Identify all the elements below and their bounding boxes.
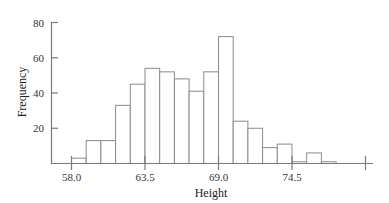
histogram-bar	[219, 37, 234, 164]
x-tick-label: 58.0	[62, 171, 82, 183]
histogram-bar	[233, 121, 248, 163]
histogram-bar	[72, 158, 87, 163]
y-tick-label: 40	[33, 87, 45, 99]
histogram-bar	[145, 68, 160, 163]
histogram-bar	[174, 79, 189, 164]
y-tick-label: 60	[33, 52, 45, 64]
histogram-bars	[72, 37, 337, 164]
x-tick-label: 74.5	[282, 171, 302, 183]
histogram-bar	[277, 144, 292, 163]
histogram-bar	[204, 72, 219, 164]
histogram-bar	[248, 128, 263, 163]
histogram-bar	[307, 153, 322, 164]
x-tick-label: 63.5	[135, 171, 155, 183]
y-axis: 20406080	[33, 17, 58, 164]
x-axis-label: Height	[195, 186, 228, 200]
y-tick-label: 20	[33, 122, 45, 134]
y-axis-label: Frequency	[15, 67, 29, 118]
histogram-bar	[263, 148, 278, 164]
histogram-bar	[130, 84, 145, 163]
histogram-bar	[101, 141, 116, 164]
histogram-bar	[160, 72, 175, 164]
histogram-bar	[86, 141, 101, 164]
histogram-chart: 20406080 58.063.569.074.5 Frequency Heig…	[0, 0, 389, 203]
y-tick-label: 80	[33, 17, 45, 29]
x-tick-label: 69.0	[209, 171, 229, 183]
histogram-bar	[189, 91, 204, 163]
histogram-bar	[116, 105, 131, 163]
